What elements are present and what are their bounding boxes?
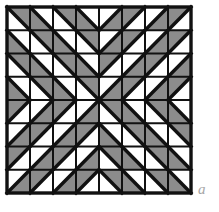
quilt-pattern-svg: a [0,0,219,212]
handwritten-annotation: a [198,181,206,197]
quilt-block-figure: a [0,0,219,212]
